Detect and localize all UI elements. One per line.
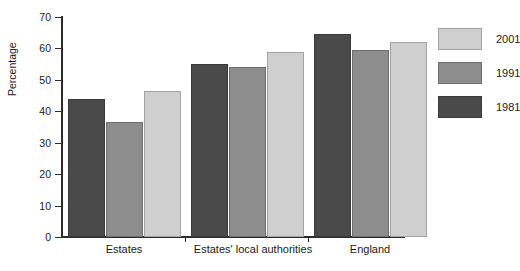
y-tick-label-40: 40 [39, 103, 51, 119]
legend-item-1991[interactable]: 1991 [438, 61, 520, 84]
bar-group-estates [68, 17, 180, 237]
legend-label-2001: 2001 [496, 33, 520, 45]
legend-item-1981[interactable]: 1981 [438, 95, 520, 118]
y-tick-label-50: 50 [39, 72, 51, 88]
legend-swatch-2001 [438, 28, 482, 50]
legend-swatch-1991 [438, 62, 482, 84]
y-tick-30: 30 [55, 143, 62, 144]
bar-england-2001[interactable] [390, 42, 427, 237]
bar-estates-local-authorities-2001[interactable] [267, 52, 304, 237]
y-tick-20: 20 [55, 174, 62, 175]
bar-group-england [314, 17, 426, 237]
legend-label-1981: 1981 [496, 101, 520, 113]
bar-estates-local-authorities-1991[interactable] [229, 67, 266, 237]
y-tick-label-60: 60 [39, 40, 51, 56]
y-tick-label-10: 10 [39, 198, 51, 214]
legend-label-1991: 1991 [496, 67, 520, 79]
category-label-england: England [314, 243, 426, 255]
y-tick-70: 70 [55, 17, 62, 18]
y-tick-50: 50 [55, 80, 62, 81]
y-axis-title: Percentage [6, 42, 18, 96]
y-tick-label-20: 20 [39, 166, 51, 182]
bar-england-1981[interactable] [314, 34, 351, 237]
bar-estates-local-authorities-1981[interactable] [191, 64, 228, 237]
bar-england-1991[interactable] [352, 50, 389, 237]
bar-estates-1981[interactable] [68, 99, 105, 237]
y-tick-label-30: 30 [39, 135, 51, 151]
legend-swatch-1981 [438, 96, 482, 118]
legend-item-2001[interactable]: 2001 [438, 27, 520, 50]
bar-estates-2001[interactable] [144, 91, 181, 237]
y-tick-label-0: 0 [45, 229, 51, 245]
y-tick-10: 10 [55, 206, 62, 207]
y-tick-label-70: 70 [39, 9, 51, 25]
y-tick-60: 60 [55, 48, 62, 49]
bar-group-estates-local-authorities [191, 17, 303, 237]
y-tick-40: 40 [55, 111, 62, 112]
x-tick-1 [185, 237, 186, 242]
y-tick-0: 0 [55, 237, 62, 238]
plot-area: 70 60 50 40 30 20 10 0 [62, 17, 400, 237]
bar-estates-1991[interactable] [106, 122, 143, 237]
x-tick-2 [308, 237, 309, 242]
chart-legend: 2001 1991 1981 [438, 27, 520, 129]
